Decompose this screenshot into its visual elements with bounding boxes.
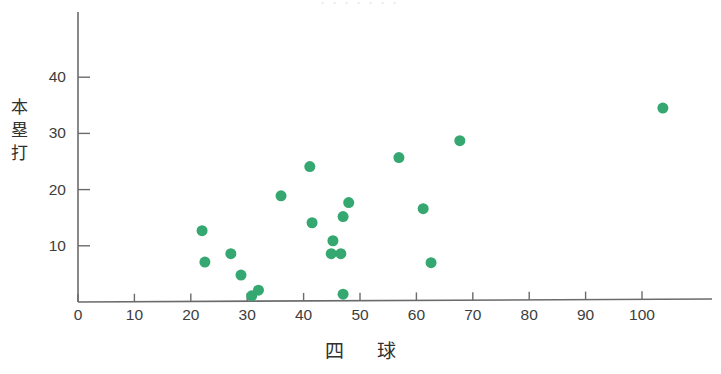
x-tick-label: 100 — [622, 306, 662, 324]
data-point — [197, 225, 208, 236]
data-point — [454, 135, 465, 146]
y-tick-label: 30 — [32, 124, 66, 142]
x-axis-title: 四 球 — [0, 336, 721, 363]
data-point — [253, 285, 264, 296]
x-tick-label: 70 — [453, 306, 493, 324]
y-axis-title-char-2: 塁 — [8, 119, 30, 142]
data-point — [335, 248, 346, 259]
x-tick-label: 60 — [396, 306, 436, 324]
data-point — [326, 248, 337, 259]
data-point — [304, 161, 315, 172]
data-point — [307, 217, 318, 228]
y-axis-title-char-3: 打 — [8, 142, 30, 165]
data-point — [327, 235, 338, 246]
data-point — [225, 248, 236, 259]
data-point — [276, 190, 287, 201]
y-tick-label: 40 — [32, 68, 66, 86]
y-tick-label: 10 — [32, 237, 66, 255]
y-tick-label: 20 — [32, 181, 66, 199]
x-tick-label: 10 — [114, 306, 154, 324]
y-axis-ticks — [78, 77, 90, 246]
data-point — [343, 197, 354, 208]
x-tick-label: 90 — [566, 306, 606, 324]
data-point — [338, 289, 349, 300]
x-tick-label: 20 — [171, 306, 211, 324]
data-point — [235, 270, 246, 281]
data-point — [393, 152, 404, 163]
y-axis-title: 本 塁 打 — [8, 96, 30, 165]
x-tick-label: 40 — [284, 306, 324, 324]
x-axis-line — [78, 299, 712, 302]
plot-area: 0102030405060708090100 10203040 — [0, 0, 721, 374]
x-tick-label: 80 — [509, 306, 549, 324]
x-tick-label: 50 — [340, 306, 380, 324]
data-point — [199, 257, 210, 268]
scatter-plot-figure: ・・・・・・・ 0102030405060708090100 10203040 … — [0, 0, 721, 374]
x-tick-label: 0 — [58, 306, 98, 324]
data-point — [338, 211, 349, 222]
data-points-group — [197, 103, 669, 302]
y-axis-title-char-1: 本 — [8, 96, 30, 119]
data-point — [426, 257, 437, 268]
x-tick-label: 30 — [227, 306, 267, 324]
data-point — [657, 103, 668, 114]
data-point — [418, 203, 429, 214]
